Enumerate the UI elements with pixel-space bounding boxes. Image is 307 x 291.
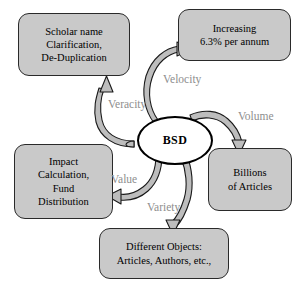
arrow-veracity	[95, 76, 134, 147]
node-billions-line-2: of Articles	[228, 180, 272, 193]
edge-label-value: Value	[111, 173, 137, 185]
node-billions-line-1: Billions	[233, 166, 266, 179]
node-impact-line-4: Distribution	[38, 195, 89, 208]
edge-label-volume: Volume	[238, 110, 274, 122]
center-node-label: BSD	[163, 133, 188, 148]
node-scholar-line-1: Scholar name	[45, 25, 102, 38]
node-impact-line-3: Fund	[53, 182, 75, 195]
node-impact-calculation: Impact Calculation, Fund Distribution	[14, 144, 113, 219]
edge-label-veracity: Veracity	[108, 98, 146, 110]
center-node-bsd: BSD	[137, 116, 213, 165]
node-increasing-line-2: 6.3% per annum	[200, 35, 269, 48]
node-objects-line-1: Different Objects:	[126, 240, 202, 253]
node-increasing-line-1: Increasing	[213, 22, 257, 35]
node-scholar-line-3: De-Duplication	[41, 51, 106, 64]
edge-label-variety: Variety	[147, 201, 180, 213]
node-billions-of-articles: Billions of Articles	[208, 148, 292, 211]
node-increasing: Increasing 6.3% per annum	[178, 9, 291, 61]
arrow-variety	[166, 156, 192, 235]
edge-label-velocity: Velocity	[163, 73, 201, 85]
node-scholar-line-2: Clarification,	[46, 38, 102, 51]
node-different-objects: Different Objects: Articles, Authors, et…	[99, 228, 229, 279]
node-impact-line-2: Calculation,	[38, 168, 89, 181]
node-objects-line-2: Articles, Authors, etc.,	[117, 254, 211, 267]
bsd-diagram: .ribbon { fill: #bdbdbd; stroke: #1a1a1a…	[0, 0, 307, 291]
node-scholar-name: Scholar name Clarification, De-Duplicati…	[18, 13, 130, 76]
node-impact-line-1: Impact	[49, 155, 78, 168]
